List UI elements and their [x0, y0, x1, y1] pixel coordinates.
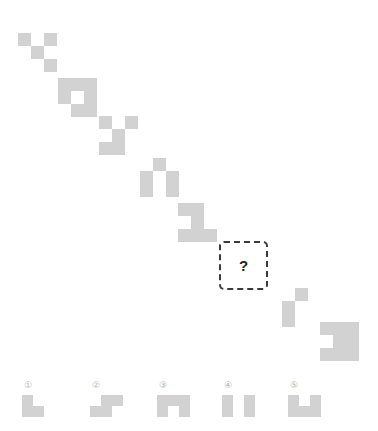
shape-cell — [191, 216, 204, 229]
shape-cell — [84, 78, 97, 91]
shape-cell — [244, 406, 255, 417]
shape-cell — [18, 33, 31, 46]
shape-cell — [346, 335, 359, 348]
shape-cell — [288, 406, 299, 417]
shape-cell — [179, 395, 190, 406]
shape-cell — [31, 46, 44, 59]
shape-cell — [310, 395, 321, 406]
shape-cell — [99, 116, 112, 129]
option-3[interactable]: ③ — [157, 380, 219, 431]
question-mark-label: ? — [239, 258, 248, 273]
option-1[interactable]: ① — [22, 380, 84, 431]
shape-cell — [112, 395, 123, 406]
shape-cell — [346, 348, 359, 361]
shape-cell — [179, 406, 190, 417]
option-5-label: ⑤ — [290, 380, 298, 391]
shape-cell — [44, 33, 57, 46]
sequence-shape-2 — [58, 78, 97, 117]
shape-cell — [191, 203, 204, 216]
option-4-shape — [222, 395, 255, 417]
shape-cell — [204, 229, 217, 242]
shape-cell — [22, 395, 33, 406]
option-2-label: ② — [92, 380, 100, 391]
shape-cell — [333, 348, 346, 361]
option-1-label: ① — [24, 380, 32, 391]
option-5[interactable]: ⑤ — [288, 380, 350, 431]
shape-cell — [282, 314, 295, 327]
option-3-label: ③ — [159, 380, 167, 391]
question-placeholder[interactable]: ? — [219, 241, 268, 290]
option-2[interactable]: ② — [90, 380, 152, 431]
shape-cell — [71, 78, 84, 91]
sequence-shape-7 — [320, 322, 359, 361]
answer-options: ①②③④⑤ — [0, 380, 378, 431]
sequence-shape-6 — [282, 288, 308, 327]
shape-cell — [282, 301, 295, 314]
option-4[interactable]: ④ — [222, 380, 284, 431]
shape-cell — [166, 171, 179, 184]
shape-cell — [295, 288, 308, 301]
shape-cell — [84, 91, 97, 104]
shape-cell — [112, 129, 125, 142]
shape-cell — [84, 104, 97, 117]
shape-cell — [157, 406, 168, 417]
shape-cell — [44, 59, 57, 72]
shape-cell — [58, 91, 71, 104]
sequence-shape-1 — [18, 33, 57, 72]
option-4-label: ④ — [224, 380, 232, 391]
shape-cell — [346, 322, 359, 335]
shape-cell — [178, 203, 191, 216]
shape-cell — [112, 142, 125, 155]
option-5-shape — [288, 395, 321, 417]
shape-cell — [310, 406, 321, 417]
sequence-shape-3 — [99, 116, 138, 155]
shape-cell — [168, 395, 179, 406]
shape-cell — [299, 406, 310, 417]
shape-cell — [99, 142, 112, 155]
shape-cell — [333, 335, 346, 348]
shape-cell — [22, 406, 33, 417]
shape-cell — [140, 184, 153, 197]
shape-cell — [58, 78, 71, 91]
puzzle-root: ? ①②③④⑤ — [0, 0, 378, 431]
shape-cell — [288, 395, 299, 406]
option-2-shape — [90, 395, 123, 417]
option-3-shape — [157, 395, 190, 417]
shape-cell — [71, 104, 84, 117]
sequence-area — [0, 0, 378, 380]
shape-cell — [222, 406, 233, 417]
shape-cell — [244, 395, 255, 406]
shape-cell — [320, 348, 333, 361]
shape-cell — [153, 158, 166, 171]
shape-cell — [157, 395, 168, 406]
shape-cell — [166, 184, 179, 197]
shape-cell — [33, 406, 44, 417]
shape-cell — [90, 406, 101, 417]
shape-cell — [333, 322, 346, 335]
shape-cell — [222, 395, 233, 406]
shape-cell — [178, 229, 191, 242]
sequence-shape-5 — [178, 203, 217, 242]
shape-cell — [125, 116, 138, 129]
shape-cell — [191, 229, 204, 242]
sequence-shape-4 — [140, 158, 179, 197]
shape-cell — [140, 171, 153, 184]
shape-cell — [320, 322, 333, 335]
shape-cell — [101, 395, 112, 406]
shape-cell — [101, 406, 112, 417]
option-1-shape — [22, 395, 44, 417]
